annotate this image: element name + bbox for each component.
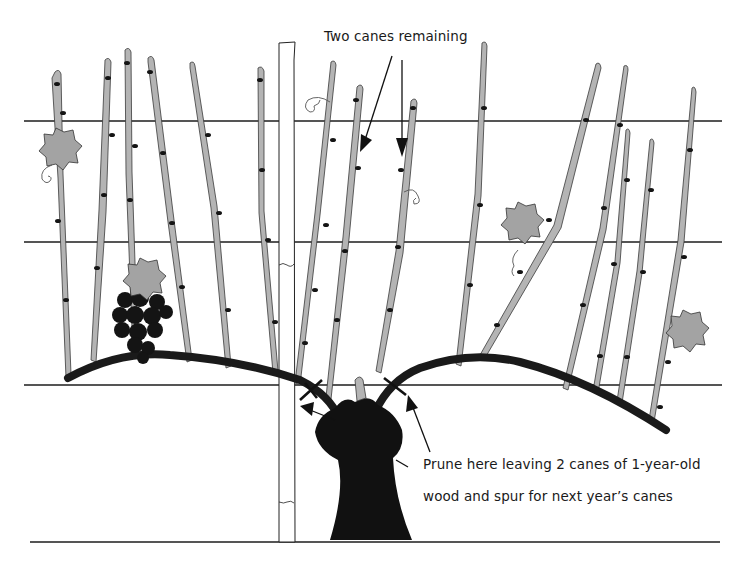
diagram-canvas [0,0,738,565]
left-canes [52,48,363,399]
prune-instruction-line1: Prune here leaving 2 canes of 1-year-old [423,458,701,472]
cane [190,62,231,368]
spur [355,377,366,401]
pruning-diagram: Two canes remaining Prune here leaving 2… [0,0,738,565]
leaf-icon [501,202,544,244]
cane [91,58,111,362]
pointer-left-cane [365,56,392,140]
cane [295,61,336,385]
cane [649,87,696,422]
pointer-trunk [396,460,408,467]
cane [258,67,278,373]
pointer-right-cut [412,405,430,452]
vine-trunk [315,398,412,540]
two-canes-remaining-label: Two canes remaining [324,30,468,44]
leaf-icon [39,128,82,170]
leaf-icon [666,310,709,352]
cane [52,70,71,378]
remaining-cane [376,99,417,373]
trellis-post [279,42,295,542]
prune-instruction-line2: wood and spur for next year’s canes [423,490,673,504]
